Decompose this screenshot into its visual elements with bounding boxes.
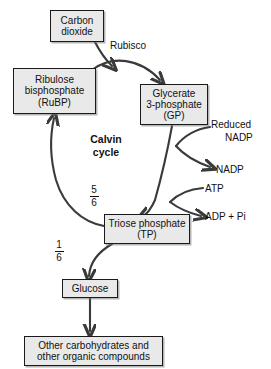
- label-reduced-nadp-line2: NADP: [211, 132, 253, 145]
- fraction-five-sixths-numerator: 5: [88, 185, 100, 195]
- node-ribulose-bisphosphate: Ribulose bisphosphate (RuBP): [13, 68, 96, 114]
- node-tp-line2: (TP): [137, 229, 156, 240]
- fraction-one-sixth-numerator: 1: [53, 240, 65, 250]
- node-other-line1: Other carbohydrates and: [38, 340, 149, 351]
- calvin-cycle-diagram: Carbon dioxide Ribulose bisphosphate (Ru…: [0, 0, 271, 369]
- arrow-rubp-to-gp: [92, 61, 160, 80]
- node-other-products: Other carbohydrates and other organic co…: [24, 336, 163, 366]
- node-rubp-line1: Ribulose: [35, 74, 74, 85]
- node-rubp-line3: (RuBP): [38, 97, 71, 108]
- node-other-line2: other organic compounds: [37, 351, 150, 362]
- fraction-five-sixths-denominator: 6: [88, 198, 100, 208]
- node-tp-line1: Triose phosphate: [109, 218, 186, 229]
- node-carbon-dioxide-line1: Carbon: [61, 15, 94, 26]
- label-reduced-nadp-line1: Reduced: [211, 119, 253, 132]
- node-carbon-dioxide: Carbon dioxide: [50, 10, 104, 42]
- label-reduced-nadp: Reduced NADP: [211, 119, 253, 144]
- node-gp-line3: (GP): [163, 110, 184, 121]
- arrow-tp-to-glucose: [89, 244, 112, 276]
- diagram-arrows-layer: [0, 0, 271, 369]
- label-adp-pi: ADP + Pi: [205, 211, 246, 222]
- arrow-gp-to-tp: [143, 126, 172, 216]
- node-triose-phosphate: Triose phosphate (TP): [104, 214, 190, 244]
- label-atp: ATP: [205, 183, 224, 194]
- arrow-reduced-nadp-in: [176, 127, 210, 146]
- node-rubp-line2: bisphosphate: [25, 85, 85, 96]
- node-glycerate-3-phosphate: Glycerate 3-phosphate (GP): [140, 84, 208, 125]
- arrow-nadp-out: [176, 146, 210, 167]
- fraction-one-sixth-denominator: 6: [53, 253, 65, 263]
- node-glucose: Glucose: [62, 279, 118, 298]
- node-gp-line2: 3-phosphate: [146, 99, 202, 110]
- label-rubisco: Rubisco: [110, 40, 146, 51]
- fraction-one-sixth: 1 6: [53, 240, 65, 263]
- calvin-cycle-label-line2: cycle: [93, 146, 119, 158]
- arrow-atp-in: [170, 188, 203, 202]
- label-nadp: NADP: [216, 164, 244, 175]
- node-glucose-line1: Glucose: [72, 283, 109, 294]
- node-carbon-dioxide-line2: dioxide: [61, 26, 93, 37]
- fraction-five-sixths: 5 6: [88, 185, 100, 208]
- node-gp-line1: Glycerate: [153, 88, 196, 99]
- calvin-cycle-label-line1: Calvin: [90, 133, 122, 145]
- calvin-cycle-center-label: Calvin cycle: [76, 133, 136, 158]
